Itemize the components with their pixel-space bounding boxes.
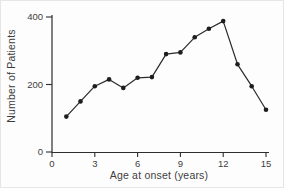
x-tick-label: 15: [261, 158, 272, 169]
data-point: [64, 114, 69, 119]
data-point: [264, 108, 269, 113]
x-tick-label: 6: [135, 158, 140, 169]
data-point: [135, 76, 140, 81]
data-point: [121, 86, 126, 91]
x-tick-label: 9: [178, 158, 183, 169]
x-axis-title: Age at onset (years): [52, 169, 266, 183]
line-chart: 020040003691215: [1, 1, 284, 188]
y-tick-label: 200: [27, 79, 43, 90]
data-point: [93, 84, 98, 89]
data-point: [178, 50, 183, 55]
x-tick-label: 0: [49, 158, 54, 169]
data-point: [221, 19, 226, 24]
axis-lines: [52, 15, 269, 153]
y-tick-label: 400: [27, 11, 43, 22]
y-tick-label: 0: [38, 146, 43, 157]
x-tick-label: 12: [218, 158, 229, 169]
data-point: [107, 77, 112, 82]
data-point: [78, 99, 83, 104]
chart-figure: 020040003691215 Number of Patients Age a…: [0, 0, 284, 188]
data-point: [249, 84, 254, 89]
data-point: [207, 27, 212, 32]
y-axis-title: Number of Patients: [5, 1, 19, 151]
data-point: [150, 75, 155, 80]
x-tick-label: 3: [92, 158, 97, 169]
data-point: [192, 35, 197, 40]
data-line: [66, 21, 266, 117]
data-point: [164, 52, 169, 57]
data-point: [235, 62, 240, 67]
